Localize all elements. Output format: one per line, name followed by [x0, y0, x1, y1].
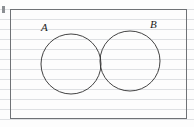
set-label-a: A	[41, 22, 48, 33]
set-label-b: B	[150, 19, 157, 30]
venn-diagram-canvas: A B	[0, 0, 194, 127]
venn-diagram-graphic	[0, 0, 194, 127]
circle-a	[41, 34, 101, 94]
circle-b	[100, 31, 160, 91]
